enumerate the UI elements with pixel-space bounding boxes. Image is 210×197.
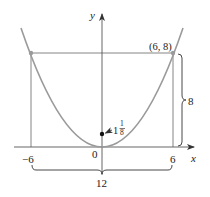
x-tick-label-6: 6 [170,153,176,165]
focus-point [100,132,104,136]
y-axis-label: y [89,9,95,21]
focus-label-denominator: 8 [120,128,124,137]
origin-label: 0 [92,148,98,160]
parabola-diagram: y x 0 −6 6 (6, 8) 1 1 8 8 12 [0,0,210,197]
point-label-6-8: (6, 8) [149,41,172,53]
height-dimension-label: 8 [188,95,194,107]
x-tick-label-neg6: −6 [22,153,34,165]
height-brace [178,54,186,146]
x-axis-label: x [190,152,196,164]
width-dimension-label: 12 [96,177,107,189]
focus-pointer-arrow [106,130,113,133]
focus-label-whole: 1 [113,125,118,136]
focus-label-numerator: 1 [120,119,124,128]
point-neg6-8 [29,51,33,55]
